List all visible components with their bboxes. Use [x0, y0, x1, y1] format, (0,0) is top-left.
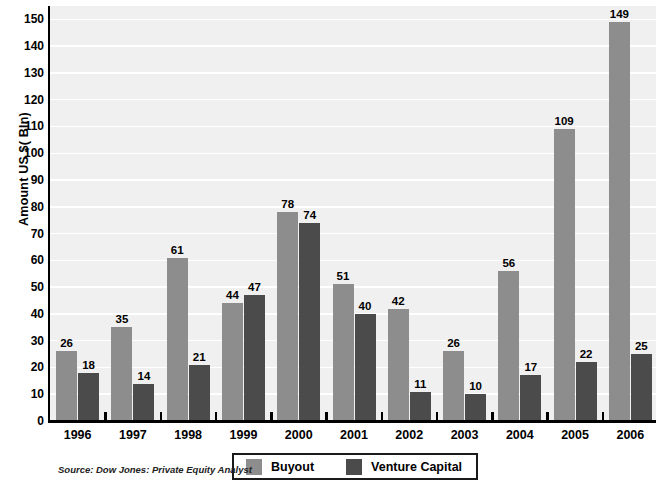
plot-frame: [48, 6, 656, 421]
bar-value-label: 11: [400, 378, 440, 390]
bar-venture-capital-2005[interactable]: [576, 362, 597, 421]
bar-venture-capital-1998[interactable]: [189, 365, 210, 421]
bar-value-label: 21: [179, 351, 219, 363]
x-axis-tick: [546, 412, 549, 422]
y-axis-tick-label: 70: [4, 228, 44, 240]
x-axis-category-label: 2005: [545, 428, 605, 442]
gridline: [50, 45, 656, 47]
legend-entry-venture-capital[interactable]: Venture Capital: [346, 455, 462, 478]
bar-value-label: 26: [434, 337, 474, 349]
legend-entry-buyout[interactable]: Buyout: [246, 455, 314, 478]
bar-venture-capital-2006[interactable]: [631, 354, 652, 421]
bar-buyout-2002[interactable]: [388, 309, 409, 421]
bar-buyout-2005[interactable]: [554, 129, 575, 421]
y-axis-tick-label: 120: [4, 94, 44, 106]
gridline: [50, 99, 656, 101]
y-axis-tick-label: 60: [4, 254, 44, 266]
x-axis-category-label: 2003: [435, 428, 495, 442]
bar-venture-capital-2004[interactable]: [520, 375, 541, 421]
x-axis-category-label: 1997: [103, 428, 163, 442]
x-axis-tick: [270, 412, 273, 422]
x-axis-line: [48, 420, 656, 423]
x-axis-tick: [491, 412, 494, 422]
chart-legend: Buyout Venture Capital: [232, 453, 478, 480]
y-axis-tick-label: 80: [4, 201, 44, 213]
x-axis-tick: [104, 412, 107, 422]
bar-venture-capital-2002[interactable]: [410, 392, 431, 421]
bar-value-label: 22: [566, 348, 606, 360]
legend-label-buyout: Buyout: [271, 460, 314, 474]
bar-venture-capital-1996[interactable]: [78, 373, 99, 421]
bar-value-label: 26: [47, 337, 87, 349]
x-axis-category-label: 1999: [213, 428, 273, 442]
y-axis-tick-label: 110: [4, 120, 44, 132]
x-axis-category-label: 2004: [490, 428, 550, 442]
y-axis-tick-label: 50: [4, 281, 44, 293]
x-axis-tick: [436, 412, 439, 422]
x-axis-tick: [325, 412, 328, 422]
gridline: [50, 19, 656, 21]
bar-value-label: 14: [124, 370, 164, 382]
bar-value-label: 74: [290, 209, 330, 221]
bar-value-label: 149: [599, 8, 639, 20]
bar-buyout-2000[interactable]: [277, 212, 298, 421]
bar-value-label: 25: [621, 340, 656, 352]
y-axis-tick-label: 150: [4, 13, 44, 25]
bar-value-label: 61: [157, 244, 197, 256]
bar-value-label: 109: [544, 115, 584, 127]
x-axis-category-label: 1996: [48, 428, 108, 442]
bar-value-label: 47: [234, 281, 274, 293]
bar-value-label: 51: [323, 270, 363, 282]
y-axis-tick-label: 10: [4, 388, 44, 400]
x-axis-tick: [602, 412, 605, 422]
y-axis-tick-label: 130: [4, 67, 44, 79]
bar-venture-capital-2001[interactable]: [355, 314, 376, 421]
bar-value-label: 56: [489, 257, 529, 269]
x-axis-category-label: 2000: [269, 428, 329, 442]
x-axis-category-label: 2002: [379, 428, 439, 442]
bar-value-label: 17: [511, 361, 551, 373]
gridline: [50, 72, 656, 74]
y-axis-tick-label: 0: [4, 415, 44, 427]
bar-venture-capital-2003[interactable]: [465, 394, 486, 421]
bar-buyout-2006[interactable]: [609, 22, 630, 421]
y-axis-tick-label: 40: [4, 308, 44, 320]
y-axis-tick-label: 140: [4, 40, 44, 52]
x-axis-category-label: 2001: [324, 428, 384, 442]
bar-value-label: 10: [456, 380, 496, 392]
x-axis-category-label: 1998: [158, 428, 218, 442]
x-axis-tick: [160, 412, 163, 422]
y-axis-tick-label: 90: [4, 174, 44, 186]
y-axis-tick-label: 100: [4, 147, 44, 159]
legend-swatch-venture-capital-icon: [346, 459, 362, 475]
bar-chart-figure: Amount US $( Bln) 0102030405060708090100…: [0, 0, 656, 485]
bar-value-label: 18: [69, 359, 109, 371]
x-axis-tick: [381, 412, 384, 422]
bar-buyout-1999[interactable]: [222, 303, 243, 421]
bar-value-label: 42: [378, 295, 418, 307]
bar-venture-capital-1999[interactable]: [244, 295, 265, 421]
source-note: Source: Dow Jones: Private Equity Analys…: [58, 464, 252, 475]
bar-value-label: 35: [102, 313, 142, 325]
bar-venture-capital-1997[interactable]: [133, 384, 154, 421]
y-axis-tick-label: 20: [4, 361, 44, 373]
bar-venture-capital-2000[interactable]: [299, 223, 320, 421]
y-axis-tick-labels: 0102030405060708090100110120130140150: [0, 0, 44, 430]
x-axis-category-label: 2006: [600, 428, 656, 442]
x-axis-tick: [215, 412, 218, 422]
y-axis-tick-label: 30: [4, 335, 44, 347]
bar-buyout-1998[interactable]: [167, 258, 188, 421]
bar-buyout-2004[interactable]: [498, 271, 519, 421]
legend-label-venture-capital: Venture Capital: [371, 460, 462, 474]
